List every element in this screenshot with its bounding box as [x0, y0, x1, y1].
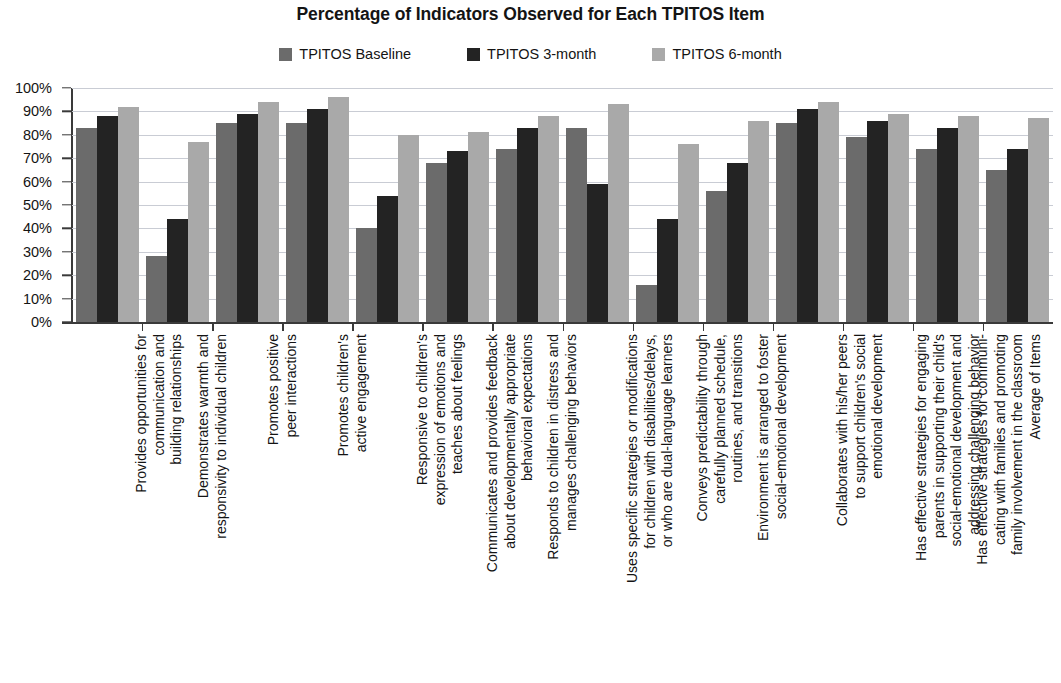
- x-axis-category-label: Has effective strategies for communi-cat…: [974, 334, 1027, 565]
- x-axis-tick-mark: [703, 322, 704, 331]
- bar[interactable]: [398, 135, 419, 322]
- x-axis-category-label: Has effective strategies for engagingpar…: [913, 334, 983, 561]
- bar[interactable]: [118, 107, 139, 322]
- bar[interactable]: [846, 137, 867, 322]
- x-axis-tick-mark: [492, 322, 493, 331]
- bar[interactable]: [1007, 149, 1028, 322]
- bar[interactable]: [167, 219, 188, 322]
- legend-entry[interactable]: TPITOS Baseline: [279, 46, 411, 62]
- y-axis-tick-mark: [62, 228, 71, 229]
- bar[interactable]: [678, 144, 699, 322]
- y-axis-tick-mark: [62, 204, 71, 205]
- bar[interactable]: [76, 128, 97, 322]
- bar[interactable]: [258, 102, 279, 322]
- y-axis-tick-label: 0%: [31, 314, 52, 330]
- x-axis-category-label: Promotes children'sactive engagement: [335, 334, 370, 457]
- bar[interactable]: [797, 109, 818, 322]
- bar-group: [352, 88, 422, 322]
- x-axis-category-label-line: expression of emotions and: [431, 334, 449, 505]
- bar-group: [142, 88, 212, 322]
- bars-layer: [72, 88, 1053, 322]
- bar[interactable]: [517, 128, 538, 322]
- x-axis-category-label-line: about developmentally appropriate: [501, 334, 519, 572]
- bar[interactable]: [657, 219, 678, 322]
- x-axis-category-label-line: active engagement: [352, 334, 370, 457]
- bar[interactable]: [377, 196, 398, 322]
- bar-group: [913, 88, 983, 322]
- bar[interactable]: [706, 191, 727, 322]
- y-axis-tick-label: 60%: [23, 174, 52, 190]
- bar[interactable]: [356, 228, 377, 322]
- x-axis-category-label: Responsive to children'sexpression of em…: [414, 334, 467, 505]
- bar[interactable]: [97, 116, 118, 322]
- x-axis-category-label-line: behavioral expectations: [519, 334, 537, 572]
- x-axis-category-label-line: responsivity to individual children: [212, 334, 230, 539]
- bar[interactable]: [748, 121, 769, 322]
- x-axis-category-label-line: for children with disabilities/delays,: [641, 334, 659, 583]
- y-axis-tick-label: 40%: [23, 220, 52, 236]
- x-axis-category-label-line: Conveys predictability through: [694, 334, 712, 522]
- x-axis-category-label-line: Promotes positive: [265, 334, 283, 445]
- bar[interactable]: [146, 256, 167, 322]
- chart-legend: TPITOS BaselineTPITOS 3-monthTPITOS 6-mo…: [0, 46, 1061, 62]
- bar[interactable]: [916, 149, 937, 322]
- bar-group: [492, 88, 562, 322]
- bar[interactable]: [286, 123, 307, 322]
- legend-entry[interactable]: TPITOS 3-month: [467, 46, 596, 62]
- bar[interactable]: [468, 132, 489, 322]
- x-axis-category-label-line: social-emotional development: [773, 334, 791, 541]
- y-axis-tick-label: 10%: [23, 291, 52, 307]
- bar-group: [282, 88, 352, 322]
- bar[interactable]: [986, 170, 1007, 322]
- bar[interactable]: [867, 121, 888, 322]
- bar[interactable]: [1028, 118, 1049, 322]
- x-axis-category-label-line: Responsive to children's: [414, 334, 432, 505]
- bar[interactable]: [888, 114, 909, 322]
- x-axis-category-label-line: communication and: [151, 334, 169, 493]
- x-axis-category-label-line: Responds to children in distress and: [545, 334, 563, 560]
- bar[interactable]: [587, 184, 608, 322]
- x-axis-tick-mark: [212, 322, 213, 331]
- bar[interactable]: [818, 102, 839, 322]
- y-axis-tick-label: 100%: [15, 80, 52, 96]
- legend-label: TPITOS Baseline: [299, 46, 411, 62]
- bar[interactable]: [496, 149, 517, 322]
- bar[interactable]: [188, 142, 209, 322]
- y-axis-tick-mark: [62, 111, 71, 112]
- bar[interactable]: [237, 114, 258, 322]
- x-axis-category-label-line: peer interactions: [282, 334, 300, 445]
- bar-group: [633, 88, 703, 322]
- x-axis-tick-mark: [843, 322, 844, 331]
- bar-group: [703, 88, 773, 322]
- legend-swatch-icon: [467, 48, 480, 61]
- x-axis-tick-mark: [913, 322, 914, 331]
- x-axis-category-label-line: building relationships: [168, 334, 186, 493]
- x-axis-category-label-line: Demonstrates warmth and: [195, 334, 213, 539]
- bar[interactable]: [776, 123, 797, 322]
- y-axis-tick-mark: [62, 274, 71, 275]
- y-axis-tick-label: 30%: [23, 244, 52, 260]
- x-axis-category-label-line: teaches about feelings: [449, 334, 467, 505]
- bar[interactable]: [447, 151, 468, 322]
- x-axis-tick-mark: [633, 322, 634, 331]
- bar[interactable]: [608, 104, 629, 322]
- bar[interactable]: [636, 285, 657, 322]
- y-axis-tick-label: 70%: [23, 150, 52, 166]
- bar[interactable]: [727, 163, 748, 322]
- bar[interactable]: [216, 123, 237, 322]
- bar[interactable]: [426, 163, 447, 322]
- bar-group: [422, 88, 492, 322]
- y-axis-tick-label: 50%: [23, 197, 52, 213]
- legend-label: TPITOS 6-month: [672, 46, 781, 62]
- x-axis-tick-mark: [282, 322, 283, 331]
- y-axis-labels: 100%90%80%70%60%50%40%30%20%10%0%: [0, 88, 62, 322]
- bar[interactable]: [538, 116, 559, 322]
- x-axis-category-label-line: Has effective strategies for engaging: [913, 334, 931, 561]
- x-axis-category-label-line: manages challenging behaviors: [562, 334, 580, 560]
- bar[interactable]: [958, 116, 979, 322]
- bar[interactable]: [307, 109, 328, 322]
- legend-entry[interactable]: TPITOS 6-month: [652, 46, 781, 62]
- bar[interactable]: [566, 128, 587, 322]
- bar[interactable]: [937, 128, 958, 322]
- bar[interactable]: [328, 97, 349, 322]
